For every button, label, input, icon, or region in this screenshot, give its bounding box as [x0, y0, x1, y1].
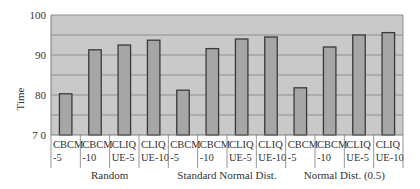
- x-tick-label-line1: CBCM: [317, 139, 348, 150]
- y-tick-label: 80: [35, 89, 47, 101]
- x-tick-label-line1: CLIQ: [229, 139, 254, 150]
- bar: [118, 45, 131, 135]
- x-tick-label-line2: UE-10: [141, 152, 169, 163]
- bar: [59, 94, 72, 135]
- bar: [177, 90, 190, 135]
- x-tick-label-line1: CLIQ: [258, 139, 283, 150]
- x-tick-label-line1: CLIQ: [346, 139, 371, 150]
- x-axis: CBCM-5CBCM-10CLIQUE-5CLIQUE-10RandomCBCM…: [51, 135, 404, 182]
- x-tick-label-line1: CLIQ: [376, 139, 401, 150]
- chart-canvas: 7 08090100 CBCM-5CBCM-10CLIQUE-5CLIQUE-1…: [0, 0, 420, 189]
- bar: [89, 50, 102, 135]
- x-tick-label-line2: -5: [53, 152, 62, 163]
- x-tick-label-line2: UE-5: [229, 152, 252, 163]
- x-tick-label-line2: -10: [200, 152, 214, 163]
- x-tick-label-line2: UE-5: [112, 152, 135, 163]
- bar: [294, 88, 307, 135]
- x-tick-label-line2: UE-10: [258, 152, 286, 163]
- x-tick-label-line1: CLIQ: [141, 139, 166, 150]
- x-tick-label-line2: -10: [82, 152, 96, 163]
- x-tick-label-line1: CBCM: [53, 139, 84, 150]
- plot-area: [51, 15, 403, 135]
- x-tick-label-line1: CBCM: [82, 139, 113, 150]
- y-axis: 7 08090100: [30, 9, 52, 141]
- x-tick-label-line1: CBCM: [200, 139, 231, 150]
- bar: [265, 37, 278, 135]
- bar: [382, 33, 395, 135]
- y-tick-label: 7 0: [32, 129, 46, 141]
- x-group-label: Normal Dist. (0.5): [304, 169, 386, 182]
- x-tick-label-line1: CBCM: [288, 139, 319, 150]
- y-tick-label: 90: [35, 49, 47, 61]
- y-axis-label: Time: [14, 87, 26, 110]
- bar: [235, 39, 248, 135]
- bar: [206, 49, 219, 135]
- bar-chart: 7 08090100 CBCM-5CBCM-10CLIQUE-5CLIQUE-1…: [0, 0, 420, 189]
- bar: [353, 35, 366, 135]
- x-tick-label-line2: UE-10: [376, 152, 404, 163]
- x-tick-label-line1: CBCM: [170, 139, 201, 150]
- bar: [147, 40, 160, 135]
- x-group-label: Standard Normal Dist.: [177, 169, 277, 181]
- x-tick-label-line2: -5: [170, 152, 179, 163]
- x-group-label: Random: [91, 169, 129, 181]
- bar: [323, 47, 336, 135]
- x-tick-label-line1: CLIQ: [112, 139, 137, 150]
- x-tick-label-line2: -10: [317, 152, 331, 163]
- y-tick-label: 100: [30, 9, 47, 21]
- x-tick-label-line2: UE-5: [346, 152, 369, 163]
- x-tick-label-line2: -5: [288, 152, 297, 163]
